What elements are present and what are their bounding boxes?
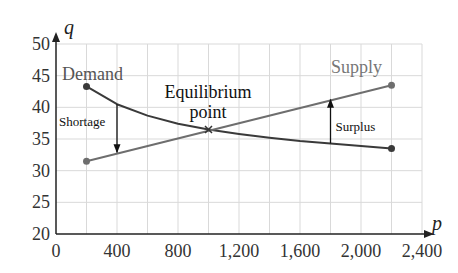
- surplus-label: Surplus: [336, 119, 376, 134]
- equilibrium-label-line2: point: [189, 102, 226, 122]
- y-tick-label: 40: [32, 97, 50, 117]
- supply-label: Supply: [331, 57, 382, 77]
- demand-end-point: [388, 145, 395, 152]
- x-tick-label: 2,000: [341, 241, 382, 261]
- y-tick-label: 25: [32, 192, 50, 212]
- demand-label: Demand: [62, 64, 123, 84]
- x-tick-label: 1,600: [280, 241, 321, 261]
- x-tick-label: 0: [52, 241, 61, 261]
- y-axis-label: q: [64, 16, 74, 39]
- equilibrium-label-line1: Equilibrium: [165, 82, 252, 102]
- supply-demand-chart: qp 04008001,2001,6002,0002,4002025303540…: [0, 0, 458, 273]
- y-tick-label: 50: [32, 34, 50, 54]
- x-tick-label: 1,200: [219, 241, 260, 261]
- y-tick-label: 30: [32, 161, 50, 181]
- y-tick-label: 20: [32, 224, 50, 244]
- x-tick-label: 2,400: [402, 241, 443, 261]
- x-tick-label: 400: [104, 241, 131, 261]
- y-tick-label: 35: [32, 129, 50, 149]
- axes: qp: [52, 16, 442, 238]
- shortage-label: Shortage: [59, 114, 105, 129]
- y-axis-arrow-icon: [52, 32, 60, 42]
- x-axis-label: p: [430, 212, 442, 235]
- x-tick-label: 800: [165, 241, 192, 261]
- supply-end-point: [388, 82, 395, 89]
- y-tick-label: 45: [32, 66, 50, 86]
- supply-start-point: [83, 158, 90, 165]
